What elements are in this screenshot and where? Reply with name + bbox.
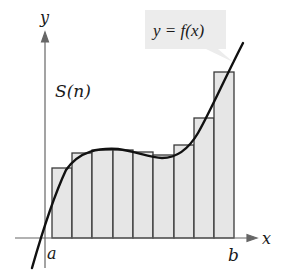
function-label-callout: y = f(x) bbox=[145, 10, 233, 62]
interval-end-label: b bbox=[228, 245, 239, 265]
x-axis-label: x bbox=[262, 229, 271, 248]
x-axis-arrow-icon bbox=[247, 235, 257, 242]
interval-start-label: a bbox=[47, 244, 57, 263]
bar-7 bbox=[174, 145, 194, 238]
bar-5 bbox=[133, 152, 153, 238]
bar-6 bbox=[153, 155, 174, 238]
function-label: y = f(x) bbox=[151, 21, 204, 40]
y-axis-arrow-icon bbox=[42, 32, 49, 42]
bar-4 bbox=[113, 150, 133, 238]
riemann-sum-diagram: y = f(x) y x S(n) a b bbox=[0, 0, 288, 278]
bar-3 bbox=[92, 150, 113, 238]
bar-2 bbox=[72, 153, 92, 238]
y-axis-label: y bbox=[39, 8, 50, 27]
sum-label: S(n) bbox=[55, 81, 91, 101]
